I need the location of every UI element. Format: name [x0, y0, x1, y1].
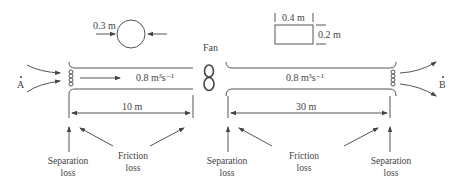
outlet-grille-icon [391, 70, 395, 86]
right-flow-label: 0.8 m³s⁻¹ [286, 72, 324, 83]
dimension-10m: 10 m [69, 94, 193, 118]
height-label: 0.2 m [318, 29, 341, 40]
svg-text:loss: loss [61, 168, 76, 178]
width-label: 0.4 m [282, 12, 305, 23]
outlet-flow-arrow-top [400, 62, 436, 73]
rectangular-duct-icon [275, 25, 313, 44]
left-flow-label: 0.8 m³s⁻¹ [136, 72, 174, 83]
loss-label-friction-1: Friction loss [118, 151, 148, 173]
length-label-30m: 30 m [296, 101, 317, 112]
inlet-flow-arrow-top [27, 65, 60, 73]
loss-label-separation-1: Separation loss [48, 156, 89, 178]
point-a-label: A [17, 79, 25, 90]
right-duct-top-wall [226, 62, 396, 68]
inlet-grille-icon [69, 70, 73, 86]
right-duct-bottom-wall [226, 89, 396, 96]
svg-text:Friction: Friction [118, 151, 148, 161]
svg-text:loss: loss [220, 168, 235, 178]
left-duct-bottom-wall [69, 89, 193, 94]
duct-diagram: 0.3 m 0.4 m 0.2 m Fan A 0.8 m³s⁻¹ [0, 0, 461, 190]
diameter-label: 0.3 m [93, 20, 116, 31]
svg-text:loss: loss [126, 163, 141, 173]
point-b-label: B [439, 79, 446, 90]
circular-duct-icon [117, 20, 145, 48]
loss-label-separation-2: Separation loss [207, 156, 248, 178]
svg-text:loss: loss [384, 168, 399, 178]
point-a: A [17, 76, 25, 90]
inlet-flow-arrow-bottom [27, 81, 60, 92]
rectangular-duct-section: 0.4 m 0.2 m [275, 12, 341, 44]
svg-text:Separation: Separation [48, 156, 89, 166]
fan-icon [204, 65, 214, 91]
loss-label-separation-3: Separation loss [371, 156, 412, 178]
left-duct-top-wall [69, 62, 193, 68]
svg-text:loss: loss [297, 163, 312, 173]
circular-duct-section: 0.3 m [93, 20, 167, 48]
length-label-10m: 10 m [122, 101, 143, 112]
friction-loss-arrow-1b [150, 128, 184, 146]
friction-loss-arrow-2b [344, 128, 378, 146]
svg-text:Separation: Separation [207, 156, 248, 166]
loss-label-friction-2: Friction loss [289, 151, 319, 173]
outlet-flow-arrow-bottom [400, 84, 436, 96]
left-duct: 0.8 m³s⁻¹ [69, 62, 193, 94]
dimension-30m: 30 m [228, 96, 390, 118]
point-b: B [439, 76, 446, 90]
svg-text:Friction: Friction [289, 151, 319, 161]
right-duct: 0.8 m³s⁻¹ [226, 62, 396, 96]
svg-text:Separation: Separation [371, 156, 412, 166]
friction-loss-arrow-2a [239, 128, 272, 146]
fan-label: Fan [203, 42, 218, 53]
friction-loss-arrow-1a [80, 128, 113, 146]
